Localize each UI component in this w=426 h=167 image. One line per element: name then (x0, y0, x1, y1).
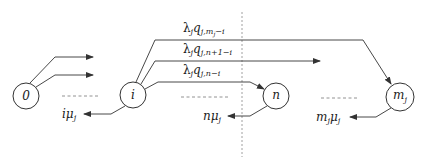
node-mj-label-sub: j (404, 95, 406, 104)
edge-0-lower (36, 75, 93, 87)
node-mj-label-main: m (393, 88, 404, 102)
coef: m (316, 110, 327, 124)
departure-label-n: nμj (203, 110, 221, 124)
mu-sub: j (74, 113, 76, 122)
edge-i-to-n-plus-1 (141, 61, 320, 84)
q-sub: j,n+1−i (201, 48, 232, 57)
departure-n (228, 106, 267, 116)
departure-label-i: iμj (62, 108, 76, 122)
departure-i (84, 106, 125, 114)
mu-sub: j (338, 116, 340, 125)
node-i-label: i (127, 89, 139, 101)
node-n-label: n (270, 89, 282, 101)
edge-label-i-to-n-plus-1: λjqj,n+1−i (183, 43, 232, 57)
q: q (193, 63, 201, 77)
lambda: λ (183, 63, 191, 77)
mu: μ (211, 109, 219, 123)
mu-sub: j (219, 115, 221, 124)
departure-label-mj: mjμj (316, 111, 340, 125)
node-0-label: 0 (20, 90, 32, 102)
departure-mj (350, 108, 391, 117)
node-mj-label: mj (389, 89, 411, 104)
q: q (193, 21, 201, 35)
mu: μ (330, 110, 338, 124)
edge-i-to-mj (136, 40, 391, 84)
q-sub: j,n−i (201, 69, 220, 78)
edge-label-i-to-n: λjqj,n−i (183, 64, 220, 78)
q-sub-tail: −i (215, 27, 224, 36)
edge-0-upper (30, 57, 93, 83)
mu: μ (66, 107, 74, 121)
coef: n (203, 109, 211, 123)
lambda: λ (183, 21, 191, 35)
edge-i-to-n (145, 82, 264, 89)
edge-label-i-to-mj: λjqj,mj−i (183, 22, 225, 37)
q-sub: j,m (201, 27, 214, 36)
q: q (193, 42, 201, 56)
lambda: λ (183, 42, 191, 56)
